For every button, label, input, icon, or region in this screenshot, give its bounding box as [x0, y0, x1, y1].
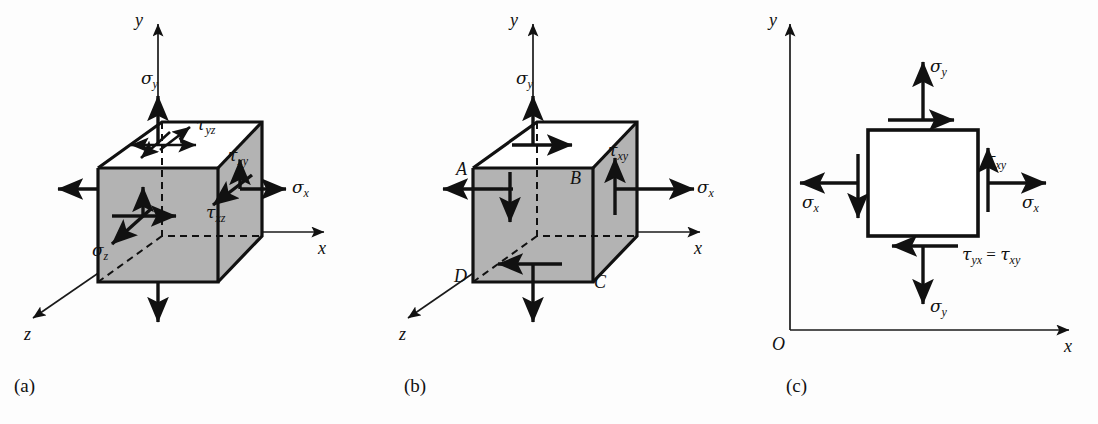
stress-element-figure: y x z σy σx σz τyz τxy	[0, 0, 1098, 424]
panel-c-tau-equality-label: τyx = τxy	[962, 244, 1021, 267]
panel-a-sigma-y-label: σy	[141, 68, 159, 91]
panel-c-caption: (c)	[786, 375, 807, 397]
panel-a-z-axis-label: z	[23, 324, 31, 344]
panel-c: y x O σy σy σx σx τxy	[767, 10, 1072, 397]
panel-c-sigma-x-left-label: σx	[802, 192, 820, 215]
panel-b-caption: (b)	[404, 375, 426, 397]
panel-b-point-b-label: B	[570, 168, 581, 188]
panel-a-sigma-x-label: σx	[292, 177, 310, 200]
panel-b-y-axis-label: y	[508, 10, 518, 30]
panel-b-point-c-label: C	[594, 272, 607, 292]
panel-c-square-element	[868, 130, 978, 236]
panel-a-x-axis-label: x	[317, 238, 326, 258]
panel-b: y x z σy σx τxy A B C	[398, 10, 715, 397]
panel-a-front-face	[98, 168, 218, 282]
panel-b-point-d-label: D	[453, 266, 467, 286]
panel-b-x-axis-label: x	[693, 238, 702, 258]
figure-canvas: y x z σy σx σz τyz τxy	[0, 0, 1098, 424]
panel-c-sigma-y-top-label: σy	[930, 56, 948, 79]
panel-a: y x z σy σx σz τyz τxy	[14, 10, 326, 397]
panel-a-y-axis-label: y	[133, 10, 143, 30]
panel-c-origin-label: O	[772, 334, 785, 354]
panel-c-x-axis-label: x	[1063, 336, 1072, 356]
panel-b-sigma-y-label: σy	[516, 68, 534, 91]
panel-a-tau-yz-label: τyz	[196, 114, 216, 137]
panel-c-y-axis-label: y	[767, 10, 777, 30]
panel-c-sigma-y-bottom-label: σy	[930, 296, 948, 319]
panel-b-point-a-label: A	[455, 159, 468, 179]
panel-a-caption: (a)	[14, 375, 35, 397]
panel-c-tau-xy-label: τxy	[986, 149, 1007, 172]
panel-c-sigma-x-right-label: σx	[1022, 192, 1040, 215]
panel-b-z-axis-label: z	[398, 324, 406, 344]
panel-b-sigma-x-label: σx	[697, 177, 715, 200]
